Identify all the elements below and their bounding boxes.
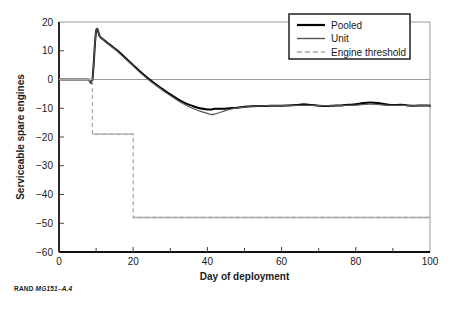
legend-label: Unit — [331, 33, 349, 44]
y-tick-label: −50 — [36, 218, 53, 229]
y-tick-label: −40 — [36, 189, 53, 200]
x-tick-label: 20 — [128, 256, 140, 267]
source-note: RAND MG151–A.4 — [14, 285, 72, 292]
figure-container: 20100−10−20−30−40−50−60 020406080100 Day… — [0, 0, 458, 309]
legend-label: Engine threshold — [331, 47, 406, 58]
x-tick-label: 60 — [276, 256, 288, 267]
x-axis-tick-labels: 020406080100 — [56, 256, 439, 267]
y-axis-title: Serviceable spare engines — [15, 74, 26, 200]
source-brand: RAND — [14, 285, 34, 292]
chart-legend: PooledUnitEngine threshold — [289, 14, 410, 59]
y-axis-tick-labels: 20100−10−20−30−40−50−60 — [36, 17, 53, 258]
y-tick-label: −30 — [36, 160, 53, 171]
x-tick-label: 80 — [350, 256, 362, 267]
x-axis-title: Day of deployment — [200, 271, 290, 282]
x-tick-label: 100 — [422, 256, 439, 267]
y-tick-label: −10 — [36, 103, 53, 114]
y-tick-label: 20 — [42, 17, 54, 28]
x-tick-label: 0 — [56, 256, 62, 267]
y-tick-label: 10 — [42, 45, 54, 56]
series-line-engine-threshold — [59, 80, 430, 218]
legend-label: Pooled — [331, 20, 362, 31]
source-figure-id: MG151–A.4 — [36, 285, 73, 292]
y-tick-label: 0 — [47, 74, 53, 85]
y-tick-label: −60 — [36, 247, 53, 258]
x-tick-label: 40 — [202, 256, 214, 267]
y-tick-label: −20 — [36, 132, 53, 143]
serviceable-spare-engines-chart: 20100−10−20−30−40−50−60 020406080100 Day… — [0, 0, 458, 309]
